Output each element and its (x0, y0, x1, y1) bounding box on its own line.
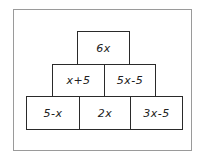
pyramid-bottom-left-brick: 5-x (26, 96, 80, 130)
brick-label: 6x (96, 42, 111, 55)
brick-label: 2x (98, 107, 113, 120)
pyramid-middle-right-brick: 5x-5 (104, 64, 156, 97)
brick-label: 5-x (44, 107, 63, 120)
brick-label: 5x-5 (117, 74, 143, 87)
pyramid-bottom-middle-brick: 2x (79, 96, 131, 130)
pyramid-bottom-right-brick: 3x-5 (130, 96, 183, 130)
pyramid-middle-left-brick: x+5 (52, 64, 105, 97)
pyramid-top-brick: 6x (77, 31, 130, 65)
brick-label: x+5 (66, 74, 90, 87)
brick-label: 3x-5 (143, 107, 169, 120)
